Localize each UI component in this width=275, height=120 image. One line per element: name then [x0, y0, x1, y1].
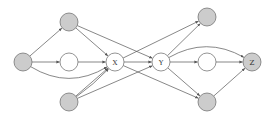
shaded-circle-icon [198, 93, 216, 111]
edge-D-Z [214, 68, 245, 96]
node-m [60, 53, 78, 71]
edge-X-C [123, 21, 198, 58]
node-a [60, 13, 78, 31]
node-label: X [113, 59, 118, 67]
open-circle-icon [198, 53, 216, 71]
node-y: Y [152, 53, 170, 71]
shaded-circle-icon [198, 8, 216, 26]
open-circle-icon [60, 53, 78, 71]
diagram-canvas: XYZ [0, 0, 275, 120]
nodes-layer: XYZ [14, 8, 261, 111]
node-d [198, 93, 216, 111]
edge-L-A [30, 28, 62, 56]
shaded-circle-icon [14, 53, 32, 71]
node-label: Y [158, 59, 164, 67]
node-n [198, 53, 216, 71]
edge-B-X [76, 69, 108, 97]
node-label: Z [250, 59, 255, 67]
node-l [14, 53, 32, 71]
directed-graph: XYZ [0, 0, 275, 120]
shaded-circle-icon [60, 93, 78, 111]
node-b [60, 93, 78, 111]
node-z: Z [243, 53, 261, 71]
node-x: X [106, 53, 124, 71]
node-c [198, 8, 216, 26]
shaded-circle-icon [60, 13, 78, 31]
